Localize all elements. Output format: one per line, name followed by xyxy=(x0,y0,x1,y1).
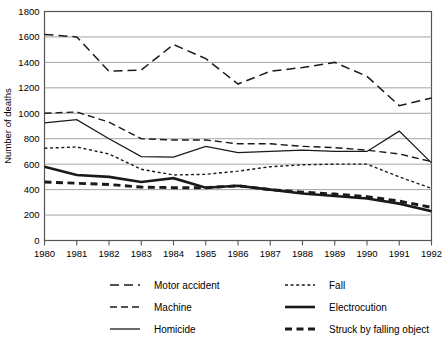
y-tick-label: 200 xyxy=(24,209,40,220)
x-tick-label: 1991 xyxy=(389,248,410,259)
line-chart-figure: 0200400600800100012001400160018001980198… xyxy=(0,0,444,343)
x-tick-label: 1986 xyxy=(227,248,248,259)
chart-legend: Motor accidentMachineHomicideFallElectro… xyxy=(0,272,444,343)
legend-label-motor-accident: Motor accident xyxy=(154,280,220,291)
y-axis-title: Number of deaths xyxy=(2,88,13,164)
x-tick-label: 1981 xyxy=(66,248,87,259)
legend-label-electrocution: Electrocution xyxy=(329,302,387,313)
y-tick-label: 800 xyxy=(24,133,40,144)
legend-svg: Motor accidentMachineHomicideFallElectro… xyxy=(0,272,444,343)
y-tick-label: 1600 xyxy=(18,31,39,42)
x-tick-label: 1982 xyxy=(98,248,119,259)
x-tick-label: 1992 xyxy=(421,248,442,259)
plot-area: 0200400600800100012001400160018001980198… xyxy=(0,0,444,270)
x-tick-label: 1988 xyxy=(292,248,313,259)
y-tick-label: 400 xyxy=(24,184,40,195)
y-tick-label: 600 xyxy=(24,159,40,170)
series-line-motor-accident xyxy=(45,34,432,105)
legend-label-fall: Fall xyxy=(329,280,345,291)
x-tick-label: 1989 xyxy=(324,248,345,259)
y-tick-label: 0 xyxy=(34,235,39,246)
x-tick-label: 1980 xyxy=(34,248,55,259)
x-tick-label: 1983 xyxy=(131,248,152,259)
legend-label-machine: Machine xyxy=(154,302,192,313)
series-line-machine xyxy=(45,112,432,162)
chart-svg: 0200400600800100012001400160018001980198… xyxy=(0,0,444,270)
x-tick-label: 1985 xyxy=(195,248,216,259)
y-tick-label: 1200 xyxy=(18,82,39,93)
legend-label-homicide: Homicide xyxy=(154,324,196,335)
x-tick-label: 1984 xyxy=(163,248,184,259)
plot-frame xyxy=(45,12,432,241)
series-line-homicide xyxy=(45,120,432,163)
y-tick-label: 1800 xyxy=(18,6,39,17)
legend-label-struck-by-falling-object: Struck by falling object xyxy=(329,324,429,335)
x-tick-label: 1987 xyxy=(260,248,281,259)
y-tick-label: 1000 xyxy=(18,108,39,119)
series-line-electrocution xyxy=(45,167,432,212)
y-tick-label: 1400 xyxy=(18,57,39,68)
x-tick-label: 1990 xyxy=(356,248,377,259)
